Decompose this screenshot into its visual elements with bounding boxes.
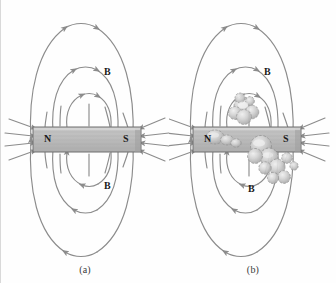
field-label-b-lower-b: B — [248, 183, 255, 194]
panel-b: N S B B (b) — [169, 0, 336, 283]
filing-cluster-top — [229, 93, 259, 125]
panel-caption-b: (b) — [169, 264, 336, 275]
figure-container: N S B B (a) — [0, 0, 336, 283]
field-label-b-upper-b: B — [264, 66, 271, 77]
magnet-north-label-b: N — [204, 133, 211, 144]
panel-caption-a: (a) — [1, 264, 169, 275]
magnet-north-label-a: N — [44, 133, 51, 144]
panel-a-field-diagram — [1, 0, 169, 283]
panel-b-field-diagram — [169, 0, 336, 283]
magnet-south-label-a: S — [123, 133, 129, 144]
field-label-b-upper-a: B — [104, 66, 111, 77]
field-label-b-lower-a: B — [104, 180, 111, 191]
panel-a: N S B B (a) — [1, 0, 169, 283]
magnet-south-label-b: S — [283, 133, 289, 144]
